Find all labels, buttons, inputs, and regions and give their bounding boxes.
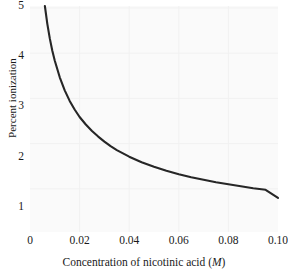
ionization-curve [30,6,278,232]
y-tick-label: 4 [18,50,24,62]
x-axis-title-tail: ) [222,256,226,268]
y-tick-label: 2 [18,151,24,163]
x-tick-label: 0.06 [169,235,189,247]
curve-path [45,6,278,198]
y-tick-label: 3 [18,100,24,112]
plot-area [30,6,278,232]
x-axis-ticks: 00.020.040.060.080.10 [0,235,288,249]
x-tick-label: 0.08 [218,235,238,247]
x-tick-label: 0.02 [70,235,90,247]
y-tick-label: 5 [18,0,24,12]
x-axis-title-text: Concentration of nicotinic acid ( [63,256,212,268]
x-axis-title-unit: M [212,256,222,268]
x-tick-label: 0 [27,235,33,247]
x-axis-title: Concentration of nicotinic acid (M) [0,256,288,268]
chart-figure: 12345 Percent ionization 00.020.040.060.… [0,0,288,269]
x-tick-label: 0.04 [119,235,139,247]
y-tick-label: 1 [18,201,24,213]
x-tick-label: 0.10 [268,235,288,247]
y-axis-title: Percent ionization [6,43,18,153]
